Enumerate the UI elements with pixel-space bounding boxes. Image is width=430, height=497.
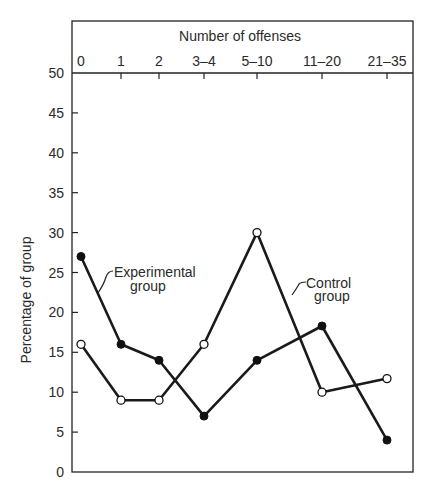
control-label-line2: group [314, 288, 350, 304]
control-group-line [81, 233, 387, 401]
y-tick-label: 50 [48, 65, 64, 81]
control-group-marker [200, 340, 208, 348]
control-group-marker [155, 396, 163, 404]
y-axis-ticks: 05101520253035404550 [48, 65, 78, 480]
experimental-leader-line [98, 271, 113, 293]
experimental-group-marker [200, 412, 208, 420]
figure-caption-clipped [95, 491, 335, 497]
control-group-marker [117, 396, 125, 404]
series-group [77, 229, 391, 445]
x-tick-label: 0 [77, 53, 85, 69]
y-tick-label: 15 [48, 344, 64, 360]
experimental-group-marker [117, 340, 125, 348]
x-axis-title: Number of offenses [179, 28, 301, 44]
y-tick-label: 5 [56, 424, 64, 440]
x-tick-label: 3–4 [192, 53, 216, 69]
experimental-group-marker [383, 436, 391, 444]
y-tick-label: 25 [48, 265, 64, 281]
line-chart: Number of offenses 0123–45–1011–2021–35 … [0, 0, 430, 497]
y-tick-label: 0 [56, 464, 64, 480]
experimental-group-marker [77, 253, 85, 261]
y-axis-title: Percentage of group [18, 236, 34, 363]
control-group-marker [318, 388, 326, 396]
control-group-marker [253, 229, 261, 237]
control-annotation: Control group [292, 275, 351, 304]
experimental-group-marker [155, 356, 163, 364]
experimental-group-marker [318, 322, 326, 330]
x-tick-label: 2 [155, 53, 163, 69]
x-tick-label: 11–20 [303, 53, 341, 69]
x-tick-label: 5–10 [241, 53, 272, 69]
control-group-marker [383, 375, 391, 383]
y-tick-label: 35 [48, 185, 64, 201]
x-axis-ticks: 0123–45–1011–2021–35 [77, 53, 407, 79]
y-tick-label: 40 [48, 145, 64, 161]
experimental-annotation: Experimental group [98, 264, 196, 294]
chart-frame [72, 21, 413, 472]
control-group-marker [77, 340, 85, 348]
y-tick-label: 30 [48, 225, 64, 241]
y-tick-label: 20 [48, 304, 64, 320]
x-tick-label: 1 [117, 53, 125, 69]
x-tick-label: 21–35 [368, 53, 407, 69]
y-tick-label: 45 [48, 105, 64, 121]
y-tick-label: 10 [48, 384, 64, 400]
experimental-group-marker [253, 356, 261, 364]
control-leader-line [292, 282, 306, 295]
experimental-label-line2: group [130, 278, 166, 294]
